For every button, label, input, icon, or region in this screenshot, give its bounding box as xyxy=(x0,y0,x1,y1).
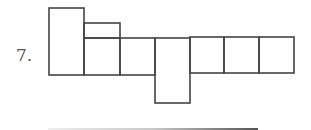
strip-cell-5 xyxy=(259,37,294,73)
strip-cell-1 xyxy=(84,38,120,75)
strip-cell-2 xyxy=(120,38,155,75)
tall-rect xyxy=(49,8,84,75)
box-net-diagram xyxy=(0,0,311,130)
answer-line xyxy=(48,128,258,130)
top-flap xyxy=(84,23,120,38)
strip-cell-4 xyxy=(224,37,259,73)
drop-rect xyxy=(155,38,190,103)
strip-cell-3 xyxy=(190,37,224,73)
